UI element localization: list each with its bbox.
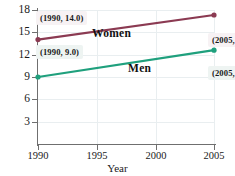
y-axis-label-18: 18 <box>0 4 30 16</box>
x-axis-label-1990: 1990 <box>15 150 61 161</box>
x-axis-title: Year <box>0 162 235 174</box>
y-tick-15 <box>32 32 37 33</box>
y-tick-6 <box>32 99 37 100</box>
x-axis-line <box>37 144 216 145</box>
y-tick-9 <box>32 77 37 78</box>
y-axis-label-9: 9 <box>0 71 30 83</box>
line-chart: 18 15 12 9 6 3 1990 1995 2000 2005 Year … <box>0 0 235 176</box>
callout-men-1990: (1990, 9.0) <box>36 45 83 59</box>
callout-men-2005: (2005, <box>208 66 235 80</box>
callout-women-1990: (1990, 14.0) <box>36 11 87 25</box>
x-axis-label-2005: 2005 <box>191 150 235 161</box>
y-axis-label-6: 6 <box>0 93 30 105</box>
gridline-v-2000 <box>156 10 157 144</box>
y-axis-label-3: 3 <box>0 116 30 128</box>
x-axis-label-2000: 2000 <box>133 150 179 161</box>
series-label-women: Women <box>92 27 131 39</box>
series-label-men: Men <box>128 62 151 74</box>
x-axis-label-1995: 1995 <box>74 150 120 161</box>
gridline-h-9 <box>38 77 215 78</box>
y-axis-label-12: 12 <box>0 49 30 61</box>
callout-women-2005: (2005, <box>208 33 235 47</box>
y-axis-label-15: 15 <box>0 26 30 38</box>
gridline-h-6 <box>38 99 215 100</box>
y-axis-line <box>37 8 38 146</box>
y-tick-3 <box>32 122 37 123</box>
gridline-h-3 <box>38 122 215 123</box>
